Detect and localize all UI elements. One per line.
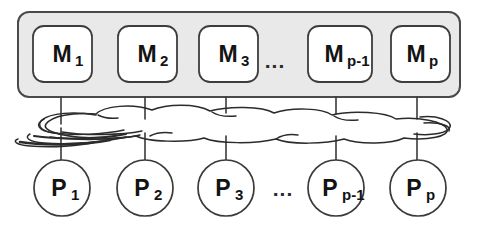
memory-module-mp-1[interactable]: M p-1 [308,26,372,82]
cloud-tail-loop-1 [40,113,96,134]
memory-module-mp[interactable]: M p [391,26,450,82]
memory-module-m2[interactable]: M 2 [118,26,177,82]
processor-p2[interactable]: P 2 [117,160,173,216]
cloud-scallop-tick-3 [334,116,358,120]
memory-module-m2-label: M [137,41,156,67]
processor-p2-label: P [134,175,149,201]
cloud-scallop-tick-2 [212,112,236,116]
processor-p3-subscript: 3 [235,186,243,203]
diagram-canvas: M 1 M 2 M 3 ... M p-1 M p [0,0,481,230]
memory-module-mp-subscript: p [429,52,438,69]
processor-pp-1[interactable]: P p-1 [308,160,365,216]
processor-p1-label: P [51,175,66,201]
processor-pp-subscript: p [426,186,435,203]
memory-module-mp-1-subscript: p-1 [347,52,370,69]
processor-pp-1-label: P [322,175,337,201]
memory-module-m3-label: M [218,41,237,67]
processor-pp-label: P [406,175,421,201]
processor-p1-subscript: 1 [71,186,79,203]
memory-module-m1-label: M [52,41,71,67]
cloud-scallop-tick-5 [276,135,298,139]
interconnection-network-cloud [15,105,450,147]
memory-to-network-links [61,97,417,124]
memory-module-m2-subscript: 2 [160,52,168,69]
memory-module-m1[interactable]: M 1 [33,26,92,82]
processor-p3[interactable]: P 3 [198,160,254,216]
processors: P 1 P 2 P 3 ... P p-1 P p [34,160,446,216]
memory-module-mp-label: M [406,41,425,67]
processor-p3-label: P [215,175,230,201]
memory-module-m1-subscript: 1 [75,52,83,69]
memory-modules-ellipsis: ... [265,49,286,72]
cloud-tail-loop-2 [39,119,124,134]
processor-pp[interactable]: P p [390,160,446,216]
memory-module-mp-1-label: M [324,41,343,67]
cloud-scallop-tick-1 [98,115,118,118]
memory-module-m3-subscript: 3 [241,52,249,69]
memory-module-m3[interactable]: M 3 [199,26,258,82]
processor-p1[interactable]: P 1 [34,160,90,216]
processor-pp-1-subscript: p-1 [342,186,365,203]
cloud-scallop-tick-4 [150,133,172,136]
processors-ellipsis: ... [273,177,294,200]
multiprocessor-architecture-diagram: M 1 M 2 M 3 ... M p-1 M p [0,0,481,230]
network-to-processor-links [61,128,417,161]
processor-p2-subscript: 2 [154,186,162,203]
